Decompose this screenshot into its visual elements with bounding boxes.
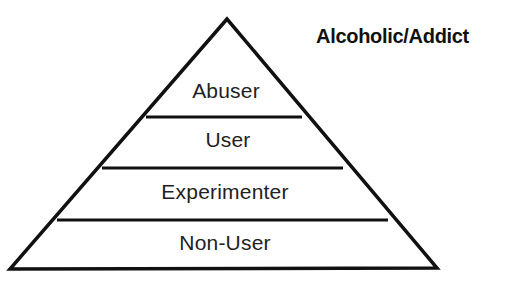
level-label-experimenter: Experimenter bbox=[161, 180, 288, 204]
level-label-abuser: Abuser bbox=[192, 79, 260, 103]
level-label-non-user: Non-User bbox=[179, 231, 270, 255]
apex-label-alcoholic-addict: Alcoholic/Addict bbox=[316, 25, 469, 48]
level-label-user: User bbox=[205, 128, 250, 152]
